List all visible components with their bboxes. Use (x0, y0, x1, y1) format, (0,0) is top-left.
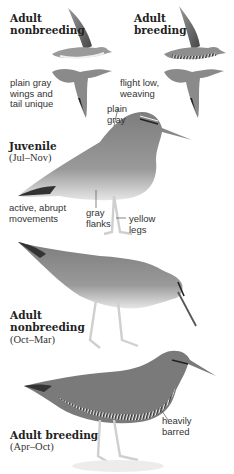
note-line: active, abrupt (9, 203, 66, 214)
note-line: gray (86, 208, 111, 219)
note-line: tail unique (10, 99, 53, 110)
note-line: yellow (129, 214, 155, 225)
note-line: plain gray (10, 78, 53, 89)
label-adult-breeding-season: (Apr–Oct) (10, 441, 54, 453)
note-line: weaving (120, 89, 159, 100)
note-line: barred (162, 427, 192, 438)
label-adult-breeding: Adult breeding (10, 429, 98, 441)
bird-adult-breeding (24, 351, 216, 472)
note-line: movements (9, 214, 66, 225)
label-adult-nonbreeding: Adult nonbreeding (10, 309, 85, 333)
note-line: legs (129, 225, 155, 236)
bird-flight-nonbreeding-upperside (52, 69, 112, 118)
callout-plain-gray: plain gray (107, 104, 127, 125)
note-flight-breeding: flight low, weaving (120, 78, 159, 99)
label-line: Adult (10, 12, 85, 24)
label-line: Adult (10, 309, 85, 321)
note-line: heavily (162, 416, 192, 427)
label-line: nonbreeding (10, 321, 85, 333)
label-flight-breeding: Adult breeding (134, 12, 187, 36)
note-flight-nonbreeding: plain gray wings and tail unique (10, 78, 53, 110)
label-adult-nonbreeding-season: (Oct–Mar) (10, 334, 55, 346)
note-line: flight low, (120, 78, 159, 89)
bird-flight-breeding-upperside (164, 69, 224, 118)
label-flight-nonbreeding: Adult nonbreeding (10, 12, 85, 36)
label-line: nonbreeding (10, 24, 85, 36)
label-juvenile-season: (Jul–Nov) (9, 152, 52, 164)
note-line: flanks (86, 219, 111, 230)
note-line: plain (107, 104, 127, 115)
label-line: Adult (134, 12, 187, 24)
callout-gray-flanks: gray flanks (86, 208, 111, 229)
callout-heavily-barred: heavily barred (162, 416, 192, 437)
note-juvenile-behavior: active, abrupt movements (9, 203, 66, 224)
illustration-canvas (0, 0, 234, 474)
callout-yellow-legs: yellow legs (129, 214, 155, 235)
label-juvenile: Juvenile (9, 140, 57, 152)
note-line: gray (107, 115, 127, 126)
label-line: breeding (134, 24, 187, 36)
